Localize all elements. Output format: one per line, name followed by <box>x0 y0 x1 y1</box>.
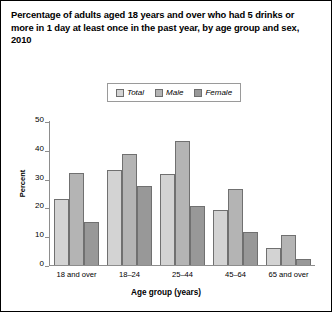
bar-male <box>175 141 190 265</box>
legend-item-female: Female <box>194 88 232 97</box>
bar-female <box>296 259 311 265</box>
plot-area: Percent 01020304050 18 and over18–2425–4… <box>49 121 315 266</box>
x-axis-tick-label: 18 and over <box>56 270 96 279</box>
bar-total <box>213 210 228 265</box>
x-axis-tick-label: 25–44 <box>172 270 193 279</box>
legend-item-total: Total <box>116 88 144 97</box>
bar-total <box>266 248 281 265</box>
y-axis-tick-label: 50 <box>24 119 44 120</box>
y-axis-tick <box>45 266 49 267</box>
bar-group: 18–24 <box>103 121 156 265</box>
x-axis-tick-label: 18–24 <box>119 270 140 279</box>
x-axis-tick-label: 65 and over <box>268 270 308 279</box>
y-axis-tick <box>45 237 49 238</box>
legend-swatch-female <box>194 89 202 97</box>
bar-group: 45–64 <box>209 121 262 265</box>
bar-groups: 18 and over18–2425–4445–6465 and over <box>50 121 315 265</box>
y-axis-tick <box>45 180 49 181</box>
bar-male <box>69 173 84 265</box>
y-axis-tick <box>45 208 49 209</box>
y-axis-tick-label: 30 <box>24 177 44 178</box>
bar-male <box>281 235 296 265</box>
legend-label-male: Male <box>166 88 183 97</box>
y-axis-tick <box>45 151 49 152</box>
x-axis-line <box>49 265 315 266</box>
y-axis-tick <box>45 122 49 123</box>
bar-total <box>54 199 69 265</box>
bar-total <box>160 174 175 265</box>
x-axis-tick-label: 45–64 <box>225 270 246 279</box>
legend-swatch-male <box>155 89 163 97</box>
chart-figure: Percentage of adults aged 18 years and o… <box>0 0 332 312</box>
bar-female <box>137 186 152 265</box>
x-axis-label: Age group (years) <box>1 288 331 297</box>
bar-female <box>190 206 205 265</box>
bar-total <box>107 170 122 265</box>
bar-female <box>243 232 258 265</box>
y-axis-label: Percent <box>18 170 27 198</box>
legend-swatch-total <box>116 89 124 97</box>
bar-male <box>122 154 137 265</box>
bar-group: 18 and over <box>50 121 103 265</box>
legend-label-female: Female <box>205 88 232 97</box>
legend-item-male: Male <box>155 88 183 97</box>
bar-group: 65 and over <box>262 121 315 265</box>
y-axis-tick-label: 40 <box>24 148 44 149</box>
y-axis-tick-label: 20 <box>24 205 44 206</box>
chart-title: Percentage of adults aged 18 years and o… <box>11 9 319 47</box>
bar-female <box>84 222 99 265</box>
chart-legend: Total Male Female <box>107 83 241 102</box>
bar-male <box>228 189 243 265</box>
y-axis-tick-label: 10 <box>24 234 44 235</box>
y-axis-tick-label: 0 <box>24 263 44 264</box>
bar-group: 25–44 <box>156 121 209 265</box>
legend-label-total: Total <box>127 88 144 97</box>
